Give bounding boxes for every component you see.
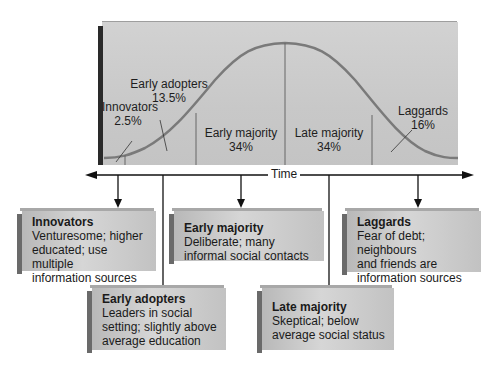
box-innovators: Innovators Venturesome; higher educated;…	[22, 211, 156, 271]
label-innovators-pct: 2.5%	[102, 114, 154, 128]
label-early-majority: Early majority 34%	[198, 126, 284, 154]
box-innovators-line-2: educated; use multiple	[32, 243, 150, 271]
box-laggards: Laggards Fear of debt; neighbours and fr…	[347, 211, 481, 272]
label-late-majority: Late majority 34%	[286, 126, 372, 154]
box-laggards-line-3: information sources	[357, 271, 475, 285]
label-laggards-pct: 16%	[388, 118, 458, 132]
label-late-majority-pct: 34%	[286, 140, 372, 154]
box-early-majority-title: Early majority	[184, 221, 318, 235]
label-early-majority-pct: 34%	[198, 140, 284, 154]
pointer-innovators	[116, 141, 132, 162]
box-innovators-title: Innovators	[32, 215, 150, 229]
arrow-innovators	[114, 199, 122, 208]
box-late-majority-line-1: Skeptical; below	[272, 314, 388, 328]
box-early-adopters-line-1: Leaders in social	[102, 306, 220, 320]
box-innovators-line-3: information sources	[32, 271, 150, 285]
box-early-adopters: Early adopters Leaders in social setting…	[92, 288, 226, 350]
arrow-laggards	[414, 199, 422, 208]
time-axis-right-arrow	[462, 171, 474, 179]
label-early-adopters: Early adopters 13.5%	[124, 77, 214, 105]
box-innovators-line-1: Venturesome; higher	[32, 229, 150, 243]
label-early-adopters-name: Early adopters	[124, 77, 214, 91]
label-late-majority-name: Late majority	[286, 126, 372, 140]
box-early-adopters-line-3: average education	[102, 334, 220, 348]
box-early-adopters-title: Early adopters	[102, 292, 220, 306]
pointer-early-adopters	[160, 120, 167, 151]
box-late-majority-line-2: average social status	[272, 328, 388, 342]
box-early-adopters-line-2: setting; slightly above	[102, 320, 220, 334]
box-late-majority-title: Late majority	[272, 300, 388, 314]
box-laggards-line-2: and friends are	[357, 257, 475, 271]
box-laggards-title: Laggards	[357, 215, 475, 229]
time-axis-left-arrow	[85, 171, 97, 179]
box-laggards-line-1: Fear of debt; neighbours	[357, 229, 475, 257]
box-early-majority: Early majority Deliberate; many informal…	[174, 211, 324, 261]
box-early-majority-line-2: informal social contacts	[184, 249, 318, 263]
bell-curve-diagram	[0, 0, 504, 369]
label-laggards-name: Laggards	[388, 104, 458, 118]
label-early-majority-name: Early majority	[198, 126, 284, 140]
label-laggards: Laggards 16%	[388, 104, 458, 132]
label-early-adopters-pct: 13.5%	[124, 91, 214, 105]
arrow-early-majority	[237, 199, 245, 208]
box-early-majority-line-1: Deliberate; many	[184, 235, 318, 249]
time-axis-label: Time	[268, 167, 300, 181]
box-late-majority: Late majority Skeptical; below average s…	[262, 288, 394, 350]
